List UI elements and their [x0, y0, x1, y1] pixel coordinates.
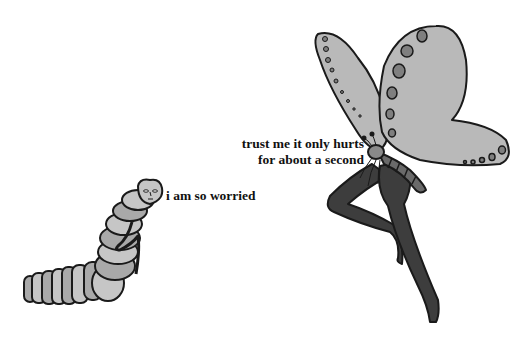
caterpillar-speech: i am so worried: [166, 188, 256, 204]
caterpillar: [24, 180, 162, 304]
butterfly-speech: trust me it only hurts for about a secon…: [240, 136, 364, 168]
illustration: [0, 0, 531, 339]
butterfly-speech-line-1: trust me it only hurts: [240, 136, 364, 152]
butterfly: [315, 26, 508, 322]
butterfly-speech-line-2: for about a second: [240, 152, 364, 168]
comic-panel: i am so worried trust me it only hurts f…: [0, 0, 531, 339]
